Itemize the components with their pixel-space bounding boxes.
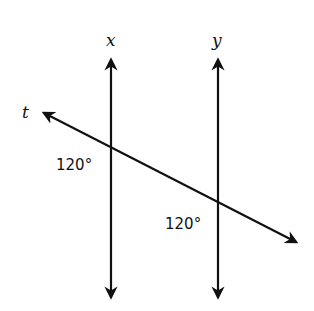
line-x-label: x (106, 30, 116, 50)
angle-label-1: 120° (56, 156, 92, 174)
line-y-label: y (211, 30, 222, 50)
angle-label-2: 120° (165, 215, 201, 233)
line-t-label: t (22, 102, 29, 122)
diagram-canvas: x y t 120° 120° (0, 0, 314, 311)
